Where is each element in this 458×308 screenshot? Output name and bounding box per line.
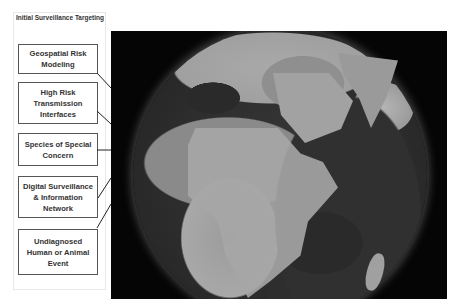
connector-line — [98, 178, 111, 198]
connector-line — [97, 111, 111, 124]
connector-line — [97, 204, 111, 228]
connector-lines — [0, 0, 458, 308]
connector-line — [97, 73, 111, 88]
